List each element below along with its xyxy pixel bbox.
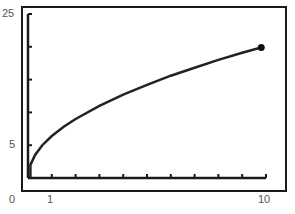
- origin-label-0: 0: [9, 194, 15, 205]
- y-label-25: 25: [2, 8, 14, 19]
- outer-frame: [22, 7, 286, 191]
- endpoint-marker: [258, 44, 265, 51]
- chart-plot: [0, 0, 295, 214]
- data-curve: [30, 48, 261, 179]
- x-label-10: 10: [258, 194, 270, 205]
- y-label-5: 5: [9, 139, 15, 150]
- x-label-1: 1: [47, 194, 53, 205]
